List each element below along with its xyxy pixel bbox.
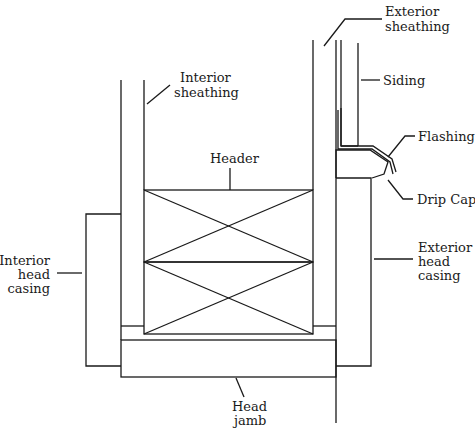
label-line: Interior (0, 253, 51, 268)
label-line: Head (232, 399, 267, 414)
head-jamb-shape (121, 340, 336, 377)
label-line: head (18, 267, 50, 282)
leader-head-jamb (236, 378, 244, 397)
label-header: Header (210, 151, 260, 166)
label-line: Interior (180, 70, 232, 85)
label-line: casing (418, 268, 461, 283)
leader-exterior-sheathing (324, 19, 382, 46)
label-head-jamb: Head jamb (232, 399, 267, 428)
label-exterior-sheathing: Exterior sheathing (385, 4, 450, 34)
window-head-diagram: Exterior sheathing Siding Interior sheat… (0, 0, 475, 433)
label-drip-cap: Drip Cap (417, 192, 475, 207)
label-line: Exterior (385, 4, 440, 19)
label-siding: Siding (383, 73, 425, 88)
exterior-head-casing-shape (336, 178, 371, 366)
flashing-outer-line (338, 110, 393, 174)
label-line: sheathing (174, 85, 239, 100)
label-line: Exterior (418, 240, 473, 255)
label-line: casing (7, 281, 50, 296)
leader-interior-sheathing (147, 85, 170, 104)
label-interior-sheathing: Interior sheathing (174, 70, 239, 100)
label-flashing: Flashing (418, 129, 475, 144)
label-interior-head-casing: Interior head casing (0, 253, 51, 296)
label-exterior-head-casing: Exterior head casing (418, 240, 473, 283)
leader-drip-cap (388, 180, 413, 199)
label-line: jamb (232, 413, 266, 428)
label-line: head (418, 254, 450, 269)
leader-flashing (388, 136, 415, 157)
label-line: sheathing (385, 19, 450, 34)
interior-head-casing-shape (86, 214, 121, 366)
